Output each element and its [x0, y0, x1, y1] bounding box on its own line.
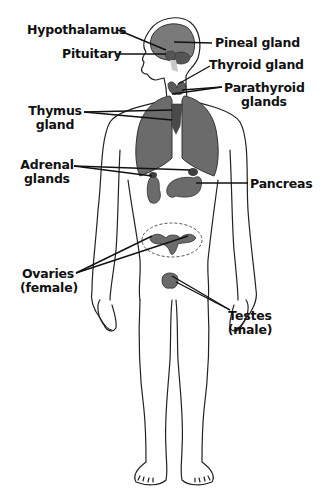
left-kidney	[147, 176, 160, 203]
testes-line1: Testes	[227, 309, 273, 323]
testes-shape	[162, 273, 178, 288]
right-leg	[176, 300, 213, 485]
right-lung	[182, 96, 218, 176]
pineal-line	[174, 42, 212, 43]
label-adrenal-glands: Adrenal glands	[18, 158, 76, 186]
label-ovaries: Ovaries (female)	[20, 267, 76, 295]
label-thyroid-gland: Thyroid gland	[209, 58, 304, 72]
thymus-line2: gland	[26, 118, 84, 132]
torso-outline	[91, 100, 256, 330]
left-lung	[136, 96, 172, 176]
label-pineal-gland: Pineal gland	[215, 36, 300, 50]
parathyroid-line2: glands	[224, 95, 304, 109]
adrenal-line2: glands	[18, 172, 76, 186]
label-pituitary: Pituitary	[62, 47, 122, 61]
label-parathyroid-glands: Parathyroid glands	[224, 81, 304, 109]
left-hand	[98, 300, 116, 331]
label-thymus-gland: Thymus gland	[26, 104, 84, 132]
label-hypothalamus: Hypothalamus	[27, 23, 126, 37]
testes-line2: (male)	[227, 323, 273, 337]
thymus-shape	[172, 104, 182, 134]
parathyroid-line1: Parathyroid	[224, 81, 304, 95]
pancreas-kidney	[167, 177, 202, 198]
left-adrenal	[149, 172, 157, 178]
ovaries-line1: Ovaries	[20, 267, 76, 281]
right-adrenal	[188, 168, 198, 176]
body-illustration	[0, 0, 321, 504]
label-pancreas: Pancreas	[250, 177, 313, 191]
thymus-line1: Thymus	[26, 104, 84, 118]
ovaries-line2: (female)	[20, 281, 76, 295]
leader-lines	[74, 30, 248, 310]
testes-line-2	[176, 282, 230, 310]
thyroid-line	[178, 66, 210, 84]
endocrine-system-diagram: Hypothalamus Pituitary Pineal gland Thyr…	[0, 0, 321, 504]
label-testes: Testes (male)	[227, 309, 273, 337]
adrenal-line1: Adrenal	[18, 158, 76, 172]
left-leg	[135, 300, 172, 485]
uterus-shape	[150, 234, 196, 254]
